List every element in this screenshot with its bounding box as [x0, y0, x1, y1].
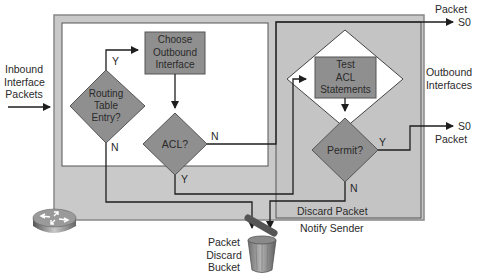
acl-yes-label: Y	[181, 173, 188, 186]
right-packet-label: Packet	[435, 133, 467, 146]
top-s0-label: S0	[458, 16, 471, 29]
acl-no-label: N	[211, 130, 219, 143]
notify-sender-label: Notify Sender	[300, 222, 364, 235]
discard-packet-label: Discard Packet	[297, 205, 368, 218]
right-s0-label: S0	[458, 120, 471, 133]
router-icon	[33, 209, 76, 233]
permit-label: Permit?	[315, 144, 375, 157]
routing-yes-label: Y	[112, 55, 119, 68]
test-acl-label: Test ACL Statements	[315, 59, 376, 97]
discard-bucket-icon	[248, 236, 276, 273]
acl-label: ACL?	[150, 138, 200, 151]
routing-no-label: N	[111, 141, 119, 154]
top-packet-label: Packet	[435, 3, 467, 16]
permit-no-label: N	[350, 182, 358, 195]
routing-table-label: Routing Table Entry?	[81, 88, 131, 124]
outbound-label: Outbound Interfaces	[424, 66, 474, 91]
inbound-label: Inbound Interface Packets	[4, 63, 44, 101]
permit-yes-label: Y	[379, 136, 386, 149]
bucket-label: Packet Discard Bucket	[204, 236, 244, 274]
choose-outbound-label: Choose Outbound Interface	[145, 34, 205, 72]
